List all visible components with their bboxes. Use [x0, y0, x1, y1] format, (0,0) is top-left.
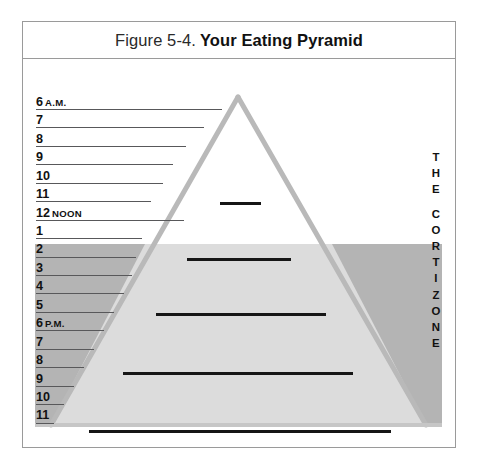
hour-label: 3 [36, 262, 43, 275]
hour-label: 10 [36, 391, 50, 404]
hour-label: 12NOON [36, 207, 82, 220]
hour-row: 8 [36, 350, 236, 368]
hour-row: 1 [36, 221, 236, 239]
hour-label-suffix: NOON [52, 208, 82, 219]
figure-frame: Figure 5-4.Your Eating Pyramid 6A.M.7 [22, 21, 456, 448]
hour-label: 7 [36, 114, 43, 127]
hour-row: 9 [36, 147, 236, 165]
hour-label: 7 [36, 336, 43, 349]
hour-row: 12NOON [36, 202, 236, 220]
figure-caption-band: Figure 5-4.Your Eating Pyramid [23, 22, 455, 59]
hour-label: 2 [36, 243, 43, 256]
cortizone-letter: I [434, 270, 437, 286]
cortizone-letter: O [431, 222, 440, 238]
afternoon-bar [156, 313, 326, 316]
cortizone-letter: R [432, 238, 440, 254]
hour-row: 4 [36, 276, 236, 294]
cortizone-letter: N [432, 319, 440, 335]
figure-root: Figure 5-4.Your Eating Pyramid 6A.M.7 [0, 0, 479, 471]
cortizone-letter: C [432, 206, 440, 222]
cortizone-letter: T [432, 254, 439, 270]
hour-row: 11 [36, 405, 236, 423]
figure-plot-area: 6A.M.789101112NOON123456P.M.7891011 THEC… [23, 59, 455, 447]
cortizone-letter: E [432, 181, 440, 197]
lunch-bar [187, 258, 291, 261]
breakfast-bar [220, 202, 261, 205]
hour-label: 4 [36, 280, 43, 293]
hour-label: 8 [36, 133, 43, 146]
cortizone-letter: H [432, 165, 440, 181]
hour-row: 10 [36, 387, 236, 405]
hour-row: 6A.M. [36, 92, 236, 110]
hour-row: 7 [36, 331, 236, 349]
hour-row: 11 [36, 184, 236, 202]
hour-axis: 6A.M.789101112NOON123456P.M.7891011 [23, 59, 454, 447]
late-night-bar [89, 430, 391, 433]
hour-label: 11 [36, 409, 49, 422]
dinner-bar [123, 372, 353, 375]
hour-label: 11 [36, 188, 49, 201]
hour-row: 5 [36, 294, 236, 312]
hour-row: 2 [36, 239, 236, 257]
hour-label-suffix: A.M. [45, 97, 66, 108]
hour-label: 9 [36, 151, 43, 164]
hour-label: 10 [36, 170, 50, 183]
hour-row: 7 [36, 110, 236, 128]
hour-label: 1 [36, 225, 43, 238]
hour-row: 10 [36, 165, 236, 183]
cortizone-letter: O [431, 303, 440, 319]
hour-label: 8 [36, 354, 43, 367]
hour-label: 6A.M. [36, 96, 66, 109]
cortizone-label: THECORTIZONE [428, 149, 444, 351]
hour-rule [36, 423, 54, 424]
hour-label: 9 [36, 373, 43, 386]
figure-caption: Figure 5-4.Your Eating Pyramid [115, 31, 363, 50]
figure-title: Your Eating Pyramid [200, 31, 363, 49]
hour-row: 8 [36, 128, 236, 146]
cortizone-letter: T [432, 149, 439, 165]
cortizone-letter: Z [432, 287, 439, 303]
hour-label: 6P.M. [36, 317, 65, 330]
hour-label-suffix: P.M. [45, 318, 65, 329]
cortizone-letter: E [432, 335, 440, 351]
figure-number: Figure 5-4. [115, 31, 196, 49]
hour-label: 5 [36, 299, 43, 312]
